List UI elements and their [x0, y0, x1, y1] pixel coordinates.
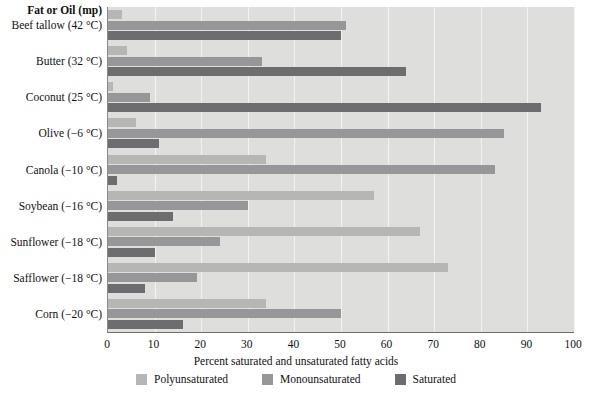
fatty-acid-bar-chart: Fat or Oil (mp) Beef tallow (42 °C) Butt… — [0, 0, 592, 395]
x-tick-label-100: 100 — [564, 337, 581, 351]
bar-polyunsaturated-group-3 — [108, 118, 136, 127]
bar-monounsaturated-group-0 — [108, 21, 346, 30]
bar-saturated-group-5 — [108, 212, 173, 221]
legend-swatch-polyunsaturated — [136, 374, 147, 385]
bar-monounsaturated-group-3 — [108, 129, 504, 138]
category-label-column: Fat or Oil (mp) Beef tallow (42 °C) Butt… — [0, 0, 106, 332]
bar-saturated-group-1 — [108, 67, 406, 76]
category-label-butter: Butter (32 °C) — [36, 54, 102, 68]
bar-monounsaturated-group-6 — [108, 237, 220, 246]
x-axis-title: Percent saturated and unsaturated fatty … — [0, 354, 592, 368]
x-axis-line — [107, 332, 574, 333]
bar-saturated-group-2 — [108, 103, 541, 112]
legend-item-polyunsaturated: Polyunsaturated — [136, 372, 228, 386]
legend-label-saturated: Saturated — [413, 372, 456, 386]
bar-monounsaturated-group-4 — [108, 165, 495, 174]
category-label-canola: Canola (−10 °C) — [26, 163, 102, 177]
bar-monounsaturated-group-5 — [108, 201, 248, 210]
x-tick-label-40: 40 — [288, 337, 300, 351]
category-label-corn: Corn (−20 °C) — [35, 307, 102, 321]
bar-saturated-group-4 — [108, 176, 117, 185]
x-tick-label-10: 10 — [148, 337, 160, 351]
bar-saturated-group-3 — [108, 139, 159, 148]
gridline-100 — [574, 7, 575, 332]
category-label-olive: Olive (−6 °C) — [39, 126, 102, 140]
bar-polyunsaturated-group-6 — [108, 227, 420, 236]
category-label-safflower: Safflower (−18 °C) — [13, 271, 102, 285]
x-tick-label-80: 80 — [474, 337, 486, 351]
x-tick-label-50: 50 — [334, 337, 346, 351]
category-label-soybean: Soybean (−16 °C) — [19, 199, 102, 213]
bar-monounsaturated-group-2 — [108, 93, 150, 102]
legend-label-polyunsaturated: Polyunsaturated — [154, 372, 228, 386]
bar-saturated-group-0 — [108, 31, 341, 40]
plot-area — [107, 7, 574, 332]
bar-saturated-group-7 — [108, 284, 145, 293]
gridline-90 — [527, 7, 528, 332]
bar-monounsaturated-group-7 — [108, 273, 197, 282]
legend-swatch-saturated — [395, 374, 406, 385]
bar-saturated-group-8 — [108, 320, 183, 329]
category-label-sunflower: Sunflower (−18 °C) — [10, 235, 102, 249]
x-tick-label-70: 70 — [427, 337, 439, 351]
bar-polyunsaturated-group-4 — [108, 155, 266, 164]
bar-polyunsaturated-group-8 — [108, 299, 266, 308]
x-tick-label-20: 20 — [194, 337, 206, 351]
bar-monounsaturated-group-1 — [108, 57, 262, 66]
bar-polyunsaturated-group-7 — [108, 263, 448, 272]
x-tick-label-60: 60 — [381, 337, 393, 351]
bar-polyunsaturated-group-5 — [108, 191, 374, 200]
x-tick-label-0: 0 — [104, 337, 110, 351]
legend-swatch-monounsaturated — [262, 374, 273, 385]
legend-item-saturated: Saturated — [395, 372, 456, 386]
legend-item-monounsaturated: Monounsaturated — [262, 372, 360, 386]
x-tick-label-30: 30 — [241, 337, 253, 351]
bar-polyunsaturated-group-1 — [108, 46, 127, 55]
chart-legend: PolyunsaturatedMonounsaturatedSaturated — [0, 372, 592, 386]
category-label-coconut: Coconut (25 °C) — [26, 90, 102, 104]
bar-polyunsaturated-group-2 — [108, 82, 113, 91]
bar-saturated-group-6 — [108, 248, 155, 257]
category-label-beef-tallow: Beef tallow (42 °C) — [11, 18, 102, 32]
x-tick-label-90: 90 — [521, 337, 533, 351]
bar-polyunsaturated-group-0 — [108, 10, 122, 19]
category-header-label: Fat or Oil (mp) — [27, 3, 102, 17]
legend-label-monounsaturated: Monounsaturated — [280, 372, 360, 386]
bar-monounsaturated-group-8 — [108, 309, 341, 318]
